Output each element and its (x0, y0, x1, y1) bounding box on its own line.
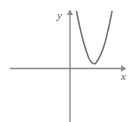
figure-background (0, 0, 133, 122)
x-axis-label: x (120, 70, 126, 82)
parabola-figure: y x (0, 0, 133, 122)
graph-canvas: y x (0, 0, 133, 122)
y-axis-label: y (56, 9, 62, 21)
